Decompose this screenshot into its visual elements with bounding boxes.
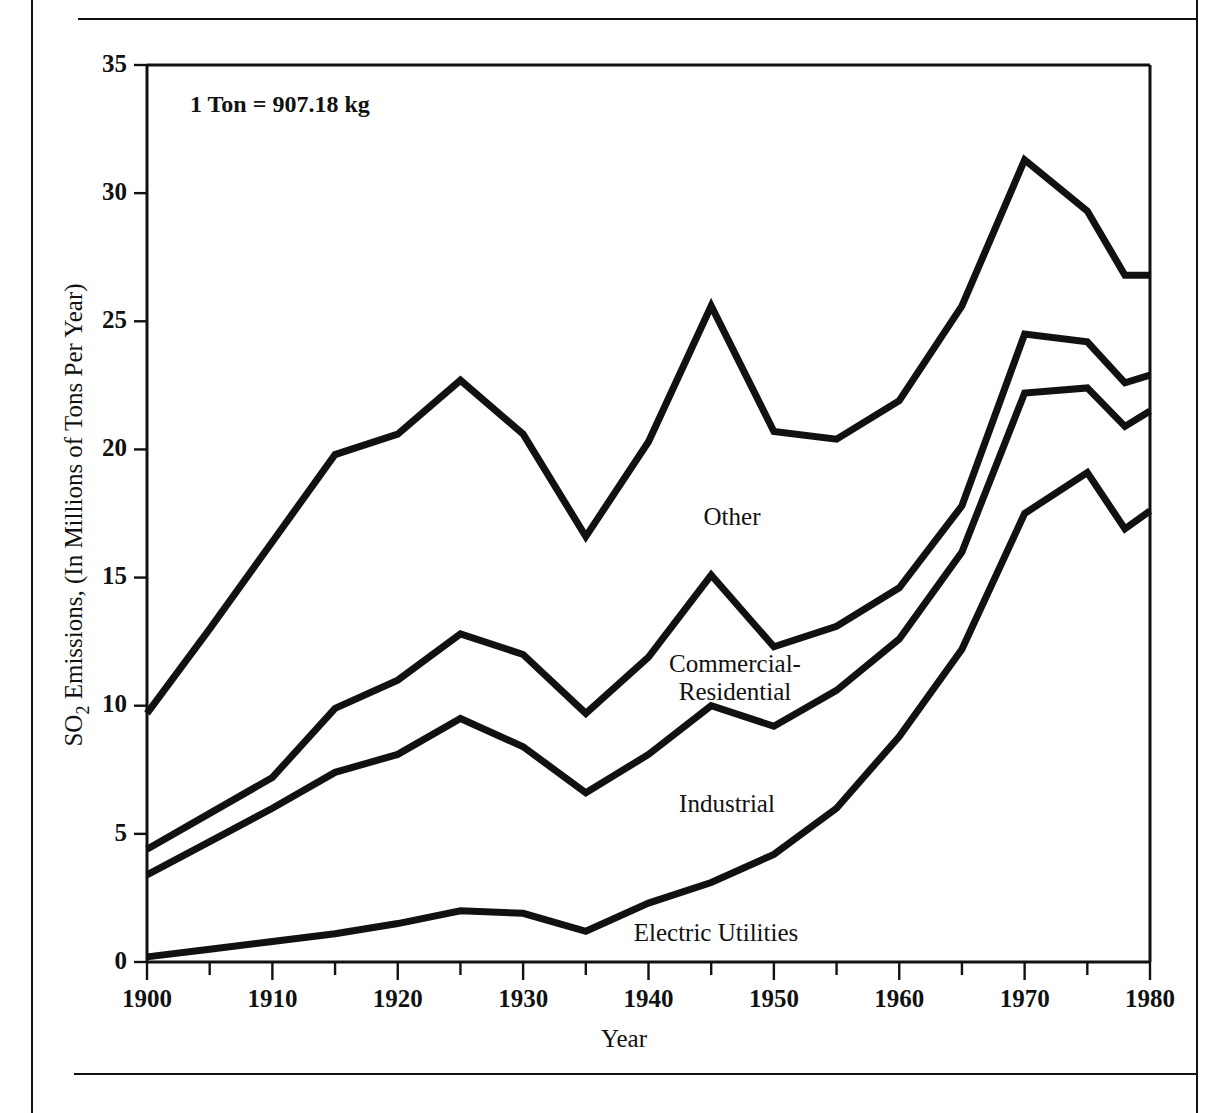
so2-emissions-chart: 05101520253035 1900191019201930194019501… <box>0 0 1229 1113</box>
x-axis-tick-labels: 190019101920193019401950196019701980 <box>122 985 1175 1012</box>
series-label-other: Other <box>704 503 762 530</box>
y-axis-tick-label: 10 <box>102 690 127 717</box>
y-axis-tick-label: 20 <box>102 434 127 461</box>
y-axis-title: SO2 Emissions, (In Millions of Tons Per … <box>60 283 93 746</box>
x-axis-tick-label: 1950 <box>749 985 799 1012</box>
svg-text:SO2 Emissions, (In Millions of: SO2 Emissions, (In Millions of Tons Per … <box>60 283 93 746</box>
x-axis-tick-label: 1960 <box>874 985 924 1012</box>
y-axis-title-subscript: 2 <box>73 706 93 715</box>
x-axis-tick-label: 1900 <box>122 985 172 1012</box>
y-axis-tick-label: 5 <box>115 819 128 846</box>
y-axis-title-rest: Emissions, (In Millions of Tons Per Year… <box>60 283 88 705</box>
y-axis-tick-label: 15 <box>102 562 127 589</box>
x-axis-tick-label: 1970 <box>1000 985 1050 1012</box>
y-axis-title-main: SO <box>60 715 87 747</box>
series-label-industrial: Industrial <box>679 790 775 817</box>
y-axis-ticks <box>134 65 147 962</box>
figure-page: 05101520253035 1900191019201930194019501… <box>0 0 1229 1113</box>
y-axis-tick-label: 25 <box>102 306 127 333</box>
y-axis-tick-label: 0 <box>115 947 128 974</box>
series-label-commercial-residential-line1: Commercial- <box>669 650 801 677</box>
x-axis-title: Year <box>601 1025 648 1052</box>
y-axis-tick-label: 30 <box>102 178 127 205</box>
x-axis-tick-label: 1940 <box>624 985 674 1012</box>
x-axis-tick-label: 1930 <box>498 985 548 1012</box>
x-axis-tick-label: 1910 <box>247 985 297 1012</box>
plot-frame <box>147 65 1150 962</box>
y-axis-tick-labels: 05101520253035 <box>102 50 127 974</box>
series-curve-3 <box>147 472 1150 956</box>
series-curve-2 <box>147 388 1150 875</box>
x-axis-tick-label: 1980 <box>1125 985 1175 1012</box>
x-axis-tick-label: 1920 <box>373 985 423 1012</box>
y-axis-tick-label: 35 <box>102 50 127 77</box>
series-curve-0 <box>147 160 1150 714</box>
unit-conversion-note: 1 Ton = 907.18 kg <box>190 91 370 117</box>
series-label-commercial-residential-line2: Residential <box>679 678 792 705</box>
series-curve-1 <box>147 334 1150 849</box>
data-series-group <box>147 160 1150 957</box>
x-axis-ticks <box>147 962 1150 980</box>
series-label-electric-utilities: Electric Utilities <box>634 919 799 946</box>
